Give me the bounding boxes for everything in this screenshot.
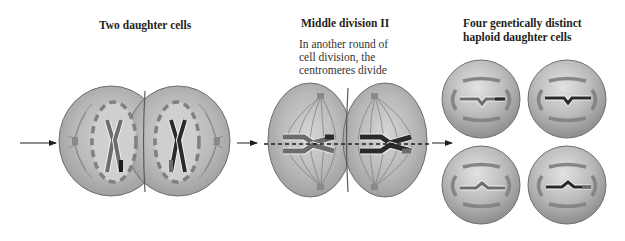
haploid-cell-4 (528, 146, 606, 224)
haploid-cell-1 (442, 60, 520, 138)
two-daughter-cells (59, 86, 230, 196)
haploid-cell-3 (442, 146, 520, 224)
middle-division-cells (264, 83, 432, 197)
haploid-cell-2 (528, 60, 606, 138)
four-haploid-cells (442, 60, 606, 224)
meiosis-diagram (0, 0, 625, 241)
